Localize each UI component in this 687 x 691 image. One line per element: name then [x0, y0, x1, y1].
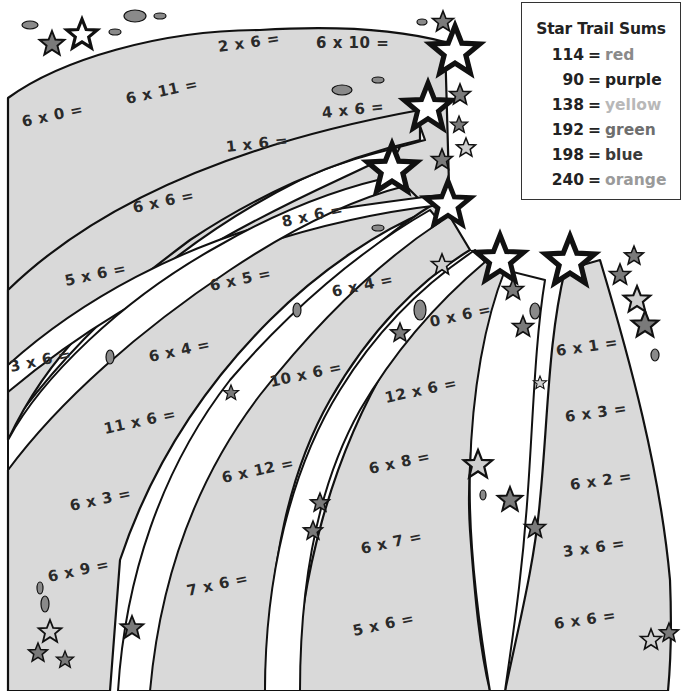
legend-sum: 138	[522, 96, 584, 114]
legend-color-blue: blue	[605, 146, 643, 164]
legend-row-blue: 198=blue	[522, 146, 672, 164]
legend-row-yellow: 138=yellow	[522, 96, 672, 114]
legend-sum: 198	[522, 146, 584, 164]
legend-color-red: red	[605, 46, 634, 64]
legend-row-red: 114=red	[522, 46, 672, 64]
legend-sum: 240	[522, 171, 584, 189]
legend-color-orange: orange	[605, 171, 666, 189]
legend-sum: 90	[522, 71, 584, 89]
legend-color-purple: purple	[605, 71, 662, 89]
star-white-7	[67, 19, 97, 48]
legend-row-orange: 240=orange	[522, 171, 672, 189]
legend-box: Star Trail Sums 114=red 90=purple 138=ye…	[521, 2, 681, 200]
legend-row-purple: 90=purple	[522, 71, 672, 89]
problem-6x10[interactable]: 6 x 10 =	[316, 34, 389, 52]
legend-color-yellow: yellow	[605, 96, 661, 114]
legend-title: Star Trail Sums	[522, 20, 680, 38]
legend-sum: 114	[522, 46, 584, 64]
legend-sum: 192	[522, 121, 584, 139]
legend-row-green: 192=green	[522, 121, 672, 139]
legend-color-green: green	[605, 121, 656, 139]
